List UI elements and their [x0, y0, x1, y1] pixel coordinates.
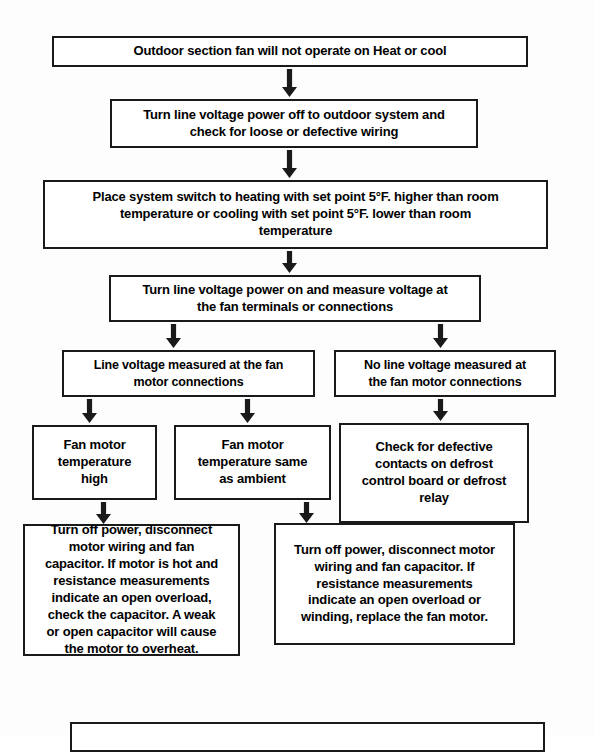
arrow-set-point-to-measure — [281, 251, 298, 273]
line-voltage-present-box: Line voltage measured at the fan motor c… — [62, 350, 315, 397]
capacitor-check-box: Turn off power, disconnect motor wiring … — [23, 524, 240, 656]
arrow-no-line-voltage-to-defrost — [432, 399, 449, 421]
arrow-temp-high-to-capacitor — [95, 502, 112, 524]
symptom-box: Outdoor section fan will not operate on … — [52, 36, 528, 67]
bottom-cutoff-box — [70, 722, 545, 752]
motor-temp-ambient-box: Fan motor temperature same as ambient — [174, 425, 331, 500]
arrow-measure-to-line-voltage — [165, 324, 182, 348]
arrow-line-voltage-to-temp-high — [81, 399, 98, 423]
arrow-symptom-to-power-off — [281, 69, 298, 97]
measure-voltage-box: Turn line voltage power on and measure v… — [109, 275, 481, 322]
check-defrost-box: Check for defective contacts on defrost … — [339, 423, 529, 523]
power-off-box: Turn line voltage power off to outdoor s… — [110, 99, 478, 148]
replace-motor-box: Turn off power, disconnect motor wiring … — [274, 523, 515, 645]
arrow-measure-to-no-line-voltage — [432, 324, 449, 348]
set-point-box: Place system switch to heating with set … — [43, 180, 548, 249]
no-line-voltage-box: No line voltage measured at the fan moto… — [334, 350, 556, 397]
motor-temp-high-box: Fan motor temperature high — [32, 425, 157, 500]
arrow-temp-ambient-to-replace — [298, 502, 315, 523]
arrow-line-voltage-to-temp-ambient — [239, 399, 256, 423]
arrow-power-off-to-set-point — [281, 150, 298, 178]
